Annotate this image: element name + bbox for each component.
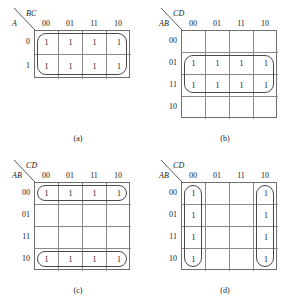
kmap-d-cell-r0c0[interactable]: 1: [182, 183, 206, 205]
kmap-d-row-header-11: 11: [159, 233, 177, 241]
kmap-d-cell-r3c1[interactable]: [206, 249, 230, 271]
kmap-d-cell-r2c3[interactable]: 1: [254, 227, 278, 249]
kmap-d-cell-r3c2[interactable]: [230, 249, 254, 271]
kmap-d-cell-r1c0[interactable]: 1: [182, 205, 206, 227]
kmap-d-cell-r1c1[interactable]: [206, 205, 230, 227]
kmap-d-caption: (d): [205, 287, 245, 295]
kmap-d-cell-r0c3[interactable]: 1: [254, 183, 278, 205]
kmap-d-cell-r2c1[interactable]: [206, 227, 230, 249]
kmap-d-row-variable: AB: [159, 172, 169, 180]
kmap-d-cell-r3c3[interactable]: 1: [254, 249, 278, 271]
kmap-d: CDAB000111100001111011111111(d): [0, 0, 290, 304]
kmap-d-cell-r0c1[interactable]: [206, 183, 230, 205]
kmap-d-row-header-00: 00: [159, 189, 177, 197]
kmap-d-cell-r1c3[interactable]: 1: [254, 205, 278, 227]
kmap-d-cell-r2c2[interactable]: [230, 227, 254, 249]
kmap-d-col-header-01: 01: [205, 172, 229, 180]
kmap-d-col-header-11: 11: [229, 172, 253, 180]
kmap-d-col-header-10: 10: [253, 172, 277, 180]
kmap-d-col-variable: CD: [173, 162, 185, 170]
kmap-d-cell-r0c2[interactable]: [230, 183, 254, 205]
kmap-d-cell-r3c0[interactable]: 1: [182, 249, 206, 271]
kmap-d-cell-r2c0[interactable]: 1: [182, 227, 206, 249]
kmap-d-row-header-01: 01: [159, 211, 177, 219]
kmap-d-grid: 11111111: [181, 182, 277, 270]
kmap-d-col-header-00: 00: [181, 172, 205, 180]
kmap-d-row-header-10: 10: [159, 255, 177, 263]
kmap-d-cell-r1c2[interactable]: [230, 205, 254, 227]
karnaugh-map-figure: BCA000111100111111111(a)CDAB000111100001…: [0, 0, 290, 304]
